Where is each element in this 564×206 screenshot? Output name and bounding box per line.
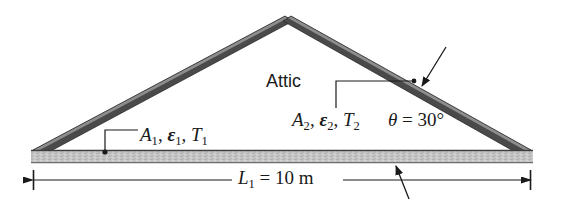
surface-1-temperature-symbol: T (191, 124, 202, 145)
surface-1-emissivity-symbol: ε (167, 124, 175, 145)
surface-1-properties-label: A1, ε1, T1 (140, 125, 208, 147)
surface-1-separator-2: , (181, 124, 191, 145)
leader-surface-1-path (105, 130, 138, 152)
angle-value: 30 (418, 109, 437, 130)
leader-surface-1-dot (102, 149, 107, 154)
surface-2-properties-label: A2, ε2, T2 (292, 110, 360, 132)
span-length-label: L1 = 10 m (238, 168, 314, 190)
surface-1-temperature-subscript: 1 (202, 134, 208, 148)
length-symbol: L (238, 167, 249, 188)
attic-radiation-diagram: Attic A1, ε1, T1 A2, ε2, T2 θ = 30° L1 =… (0, 0, 564, 206)
length-equals: = (255, 167, 275, 188)
surface-2-separator-1: , (310, 109, 320, 130)
attic-label: Attic (266, 72, 301, 90)
angle-degree-unit: ° (437, 109, 445, 130)
surface-2-emissivity-symbol: ε (319, 109, 327, 130)
length-value: 10 (275, 167, 294, 188)
roof-angle-label: θ = 30° (388, 110, 444, 129)
length-unit: m (294, 167, 314, 188)
surface-2-temperature-symbol: T (343, 109, 354, 130)
angle-equals: = (397, 109, 417, 130)
leader-surface-2-dot (412, 79, 417, 84)
angle-symbol: θ (388, 109, 397, 130)
surface-2-separator-2: , (333, 109, 343, 130)
surface-1-separator-1: , (158, 124, 168, 145)
surface-1-area-symbol: A (140, 124, 152, 145)
surface-2-area-symbol: A (292, 109, 304, 130)
surface-2-temperature-subscript: 2 (354, 119, 360, 133)
roof-surface-pointer-arrow (422, 47, 446, 86)
floor-surface-pointer-arrow (396, 166, 409, 199)
